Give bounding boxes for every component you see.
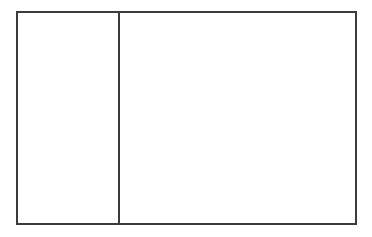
split-view-container <box>16 11 357 225</box>
left-pane <box>18 13 120 223</box>
right-pane <box>120 13 355 223</box>
